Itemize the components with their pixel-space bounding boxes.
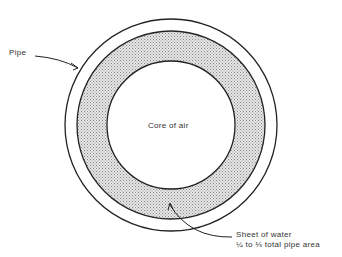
pipe-leader-arrow: [35, 56, 78, 68]
water-label-line1: Sheet of water: [236, 230, 292, 239]
water-label-line2: ¼ to ⅓ total pipe area: [236, 240, 320, 249]
core-label: Core of air: [148, 121, 189, 130]
pipe-label: Pipe: [9, 48, 26, 57]
